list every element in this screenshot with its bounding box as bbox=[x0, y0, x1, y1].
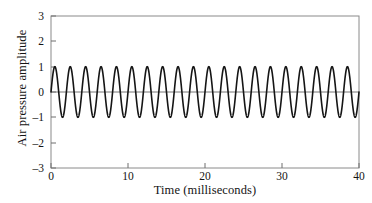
plot-area bbox=[0, 0, 372, 203]
figure-air-pressure-waveform: Air pressure amplitude 3 2 1 0 –1 –2 –3 … bbox=[0, 0, 372, 203]
